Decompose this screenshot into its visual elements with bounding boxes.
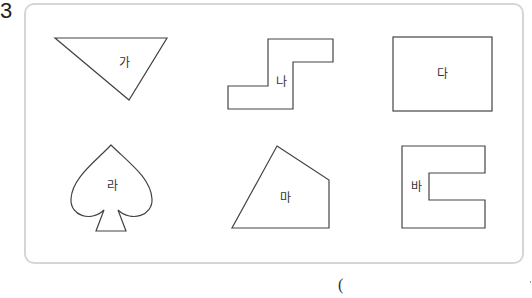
label-da: 다 [437, 67, 448, 81]
label-ba: 바 [411, 180, 422, 194]
answer-open-paren: ( [338, 276, 343, 294]
shape-ga-triangle [55, 38, 167, 100]
label-ra: 라 [107, 179, 118, 193]
answer-close-mark [530, 281, 531, 283]
label-ma: 마 [280, 191, 291, 205]
shape-ma-quad [232, 146, 329, 228]
shape-na-z [228, 39, 333, 109]
label-na: 나 [276, 75, 287, 89]
label-ga: 가 [119, 56, 130, 70]
shapes-figure: 가 나 다 라 마 바 [0, 0, 532, 298]
